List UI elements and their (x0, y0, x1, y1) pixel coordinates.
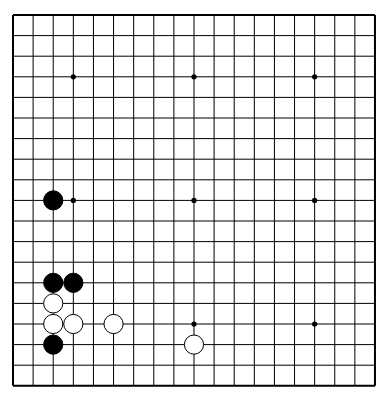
star-point (191, 74, 196, 79)
white-stone (184, 335, 203, 354)
star-point (312, 321, 317, 326)
white-stone (104, 314, 123, 333)
star-point (191, 198, 196, 203)
star-point (312, 74, 317, 79)
black-stone (44, 191, 63, 210)
black-stone (44, 273, 63, 292)
star-point (71, 74, 76, 79)
black-stone (44, 335, 63, 354)
star-point (71, 198, 76, 203)
black-stone (64, 273, 83, 292)
stones-layer (44, 191, 204, 354)
go-board[interactable] (0, 0, 389, 401)
star-point (312, 198, 317, 203)
white-stone (64, 314, 83, 333)
white-stone (44, 294, 63, 313)
white-stone (44, 314, 63, 333)
star-point (191, 321, 196, 326)
